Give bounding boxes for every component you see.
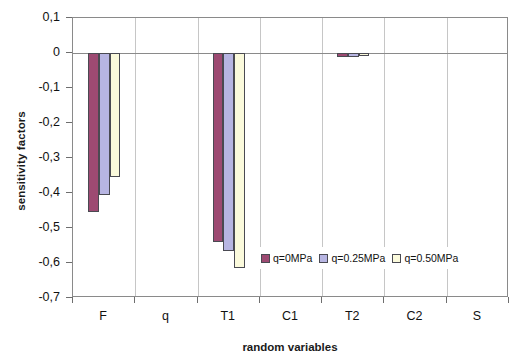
x-axis-tick-label: q: [162, 309, 169, 323]
legend-swatch: [392, 254, 401, 263]
x-axis-tick-label: T1: [220, 309, 235, 323]
x-axis-tick-label: T2: [345, 309, 360, 323]
x-axis-tick-mark: [134, 297, 135, 303]
y-axis-tick-label: -0,2: [2, 115, 60, 129]
x-axis-tick-mark: [446, 297, 447, 303]
y-axis-tick-label: -0,5: [2, 220, 60, 234]
bar: [88, 53, 99, 212]
category-separator: [135, 18, 136, 296]
legend-label: q=0MPa: [273, 252, 312, 264]
bar: [234, 53, 245, 268]
bar: [99, 53, 110, 195]
y-axis-tick-label: 0: [2, 45, 60, 59]
bar: [359, 53, 370, 56]
x-axis-tick-label: C1: [282, 309, 298, 323]
category-separator: [198, 18, 199, 296]
bar: [213, 53, 224, 242]
x-axis-tick-mark: [321, 297, 322, 303]
zero-line: [73, 53, 507, 54]
legend-item: q=0MPa: [261, 252, 312, 264]
bar: [348, 53, 359, 57]
x-axis-tick-label: C2: [407, 309, 423, 323]
y-axis-tick-label: 0,1: [2, 10, 60, 24]
y-axis-tick-label: -0,4: [2, 185, 60, 199]
y-axis-tick-label: -0,1: [2, 80, 60, 94]
x-axis-tick-mark: [508, 297, 509, 303]
legend-label: q=0.25MPa: [331, 252, 385, 264]
bar: [223, 53, 234, 251]
x-axis-tick-mark: [72, 297, 73, 303]
legend-swatch: [319, 254, 328, 263]
legend-item: q=0.50MPa: [392, 252, 458, 264]
legend-item: q=0.25MPa: [319, 252, 385, 264]
x-axis-tick-label: F: [99, 309, 107, 323]
chart-legend: q=0MPaq=0.25MPaq=0.50MPa: [258, 247, 461, 269]
bar: [110, 53, 121, 177]
y-axis-tick-label: -0,3: [2, 150, 60, 164]
legend-label: q=0.50MPa: [404, 252, 458, 264]
y-axis-tick-label: -0,6: [2, 255, 60, 269]
x-axis-tick-label: S: [473, 309, 481, 323]
x-axis-tick-mark: [383, 297, 384, 303]
bar-chart: sensitivity factors random variables 0,1…: [0, 0, 513, 363]
x-axis-tick-mark: [259, 297, 260, 303]
x-axis-tick-mark: [197, 297, 198, 303]
y-axis-tick-label: -0,7: [2, 290, 60, 304]
legend-swatch: [261, 254, 270, 263]
bar: [337, 53, 348, 57]
